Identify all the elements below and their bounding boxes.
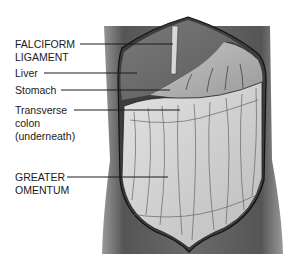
label-line: Transverse — [15, 104, 75, 117]
label-line: colon — [15, 117, 75, 130]
abdomen-diagram: FALCIFORM LIGAMENT Liver Stomach Transve… — [0, 0, 294, 259]
label-line: (underneath) — [15, 130, 75, 143]
label-liver: Liver — [15, 67, 38, 80]
label-line: OMENTUM — [15, 184, 69, 197]
label-line: Liver — [15, 67, 38, 80]
label-line: GREATER — [15, 171, 69, 184]
label-transverse-colon: Transverse colon (underneath) — [15, 104, 75, 143]
label-line: LIGAMENT — [15, 51, 75, 64]
label-stomach: Stomach — [15, 84, 56, 97]
label-greater-omentum: GREATER OMENTUM — [15, 171, 69, 197]
label-line: Stomach — [15, 84, 56, 97]
label-line: FALCIFORM — [15, 38, 75, 51]
label-falciform-ligament: FALCIFORM LIGAMENT — [15, 38, 75, 64]
